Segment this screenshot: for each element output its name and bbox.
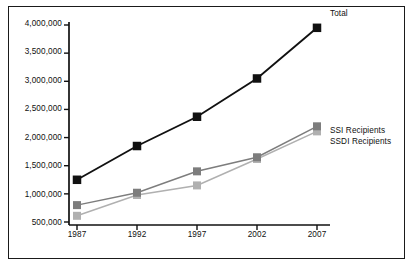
marker-ssi-recipients-1997	[193, 167, 201, 175]
marker-ssdi-recipients-1987	[73, 212, 81, 220]
x-tick-label-2007: 2007	[297, 230, 337, 239]
legend-label-ssdi: SSDI Recipients	[330, 137, 391, 146]
x-tick-label-1987: 1987	[57, 230, 97, 239]
legend-label-total: Total	[330, 9, 348, 18]
series-line-total	[77, 28, 317, 180]
y-tick-label-500000: 500,000	[2, 218, 62, 227]
marker-ssi-recipients-2007	[313, 122, 321, 130]
y-tick-label-2000000: 2,000,000	[2, 133, 62, 142]
y-tick-label-1000000: 1,000,000	[2, 190, 62, 199]
y-tick-label-3500000: 3,500,000	[2, 47, 62, 56]
marker-total-2007	[313, 24, 322, 33]
x-tick-label-1992: 1992	[117, 230, 157, 239]
marker-ssi-recipients-1992	[133, 189, 141, 197]
marker-ssdi-recipients-1997	[193, 181, 201, 189]
y-tick-label-1500000: 1,500,000	[2, 161, 62, 170]
marker-total-1987	[73, 176, 82, 185]
marker-ssi-recipients-1987	[73, 201, 81, 209]
marker-ssi-recipients-2002	[253, 153, 261, 161]
y-tick-label-2500000: 2,500,000	[2, 104, 62, 113]
marker-total-2002	[253, 74, 262, 83]
series-markers	[73, 24, 322, 220]
chart-figure: 4,000,000 3,500,000 3,000,000 2,500,000 …	[0, 0, 415, 270]
series-line-ssi-recipients	[77, 126, 317, 205]
x-tick-label-2002: 2002	[237, 230, 277, 239]
marker-total-1992	[133, 142, 142, 151]
y-tick-label-3000000: 3,000,000	[2, 76, 62, 85]
marker-total-1997	[193, 112, 202, 121]
y-tick-label-4000000: 4,000,000	[2, 19, 62, 28]
legend-label-ssi: SSI Recipients	[330, 126, 385, 135]
x-tick-label-1997: 1997	[177, 230, 217, 239]
